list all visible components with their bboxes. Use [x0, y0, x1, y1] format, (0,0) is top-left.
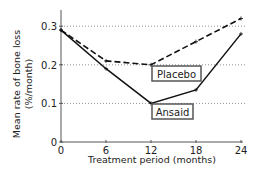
- series-placebo: [61, 19, 241, 65]
- data-series: [59, 16, 243, 105]
- y-tick-label: 0.3: [41, 21, 57, 32]
- x-tick-label: 0: [58, 145, 64, 156]
- y-axis-label-line1: Mean rate of bone loss: [11, 30, 22, 139]
- y-tick-label: 0.1: [41, 98, 57, 109]
- y-tick-label: 0.2: [41, 60, 57, 71]
- y-axis-ticks: 00.10.20.3: [41, 21, 63, 148]
- x-axis-label: Treatment period (months): [87, 154, 216, 165]
- y-axis-label-line2: (%/month): [23, 59, 34, 109]
- ansaid-label: Ansaid: [156, 107, 190, 118]
- ansaid-label-box: Ansaid: [152, 104, 193, 119]
- x-tick-label: 24: [235, 145, 248, 156]
- line-chart: 06121824 00.10.20.3 Placebo Ansaid Treat…: [0, 0, 261, 177]
- placebo-label: Placebo: [157, 69, 196, 80]
- placebo-label-box: Placebo: [152, 66, 201, 81]
- y-tick-label: 0: [51, 137, 57, 148]
